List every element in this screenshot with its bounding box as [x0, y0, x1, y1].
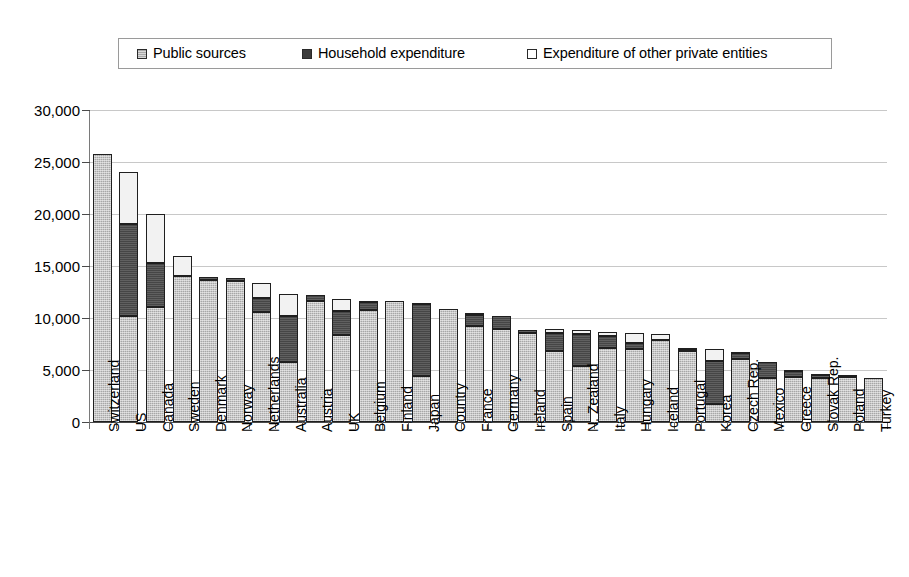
x-axis-category-label: France — [480, 388, 494, 432]
bar-segment-household-expenditure[interactable] — [412, 304, 431, 376]
x-axis-category-label: Netherlands — [267, 357, 281, 433]
bar-group[interactable] — [412, 110, 431, 422]
bar-segment-private-entities[interactable] — [678, 348, 697, 350]
x-axis-category-label: Australia — [294, 378, 308, 432]
bar-group[interactable] — [465, 110, 484, 422]
bar-group[interactable] — [864, 110, 883, 422]
bar-segment-household-expenditure[interactable] — [625, 343, 644, 349]
bar-segment-household-expenditure[interactable] — [146, 263, 165, 307]
x-axis-category-label: Belgium — [373, 381, 387, 432]
x-axis-category-label: Country — [453, 383, 467, 432]
bar-segment-household-expenditure[interactable] — [119, 224, 138, 316]
x-axis-category-label: Japan — [427, 394, 441, 432]
bar-segment-private-entities[interactable] — [545, 329, 564, 332]
bar-group[interactable] — [651, 110, 670, 422]
x-axis-category-label: Denmark — [214, 375, 228, 432]
bar-group[interactable] — [678, 110, 697, 422]
bar-segment-private-entities[interactable] — [412, 303, 431, 305]
bar-segment-household-expenditure[interactable] — [252, 298, 271, 312]
bar-series-layer — [0, 0, 909, 577]
bar-segment-household-expenditure[interactable] — [572, 334, 591, 366]
bar-group[interactable] — [146, 110, 165, 422]
bar-segment-private-entities[interactable] — [731, 352, 750, 354]
x-axis-category-label: Mexico — [772, 388, 786, 432]
bar-group[interactable] — [439, 110, 458, 422]
bar-segment-private-entities[interactable] — [705, 349, 724, 360]
bar-segment-private-entities[interactable] — [279, 294, 298, 316]
x-axis-category-label: UK — [347, 413, 361, 432]
bar-segment-household-expenditure[interactable] — [199, 277, 218, 279]
bar-group[interactable] — [306, 110, 325, 422]
bar-segment-household-expenditure[interactable] — [226, 278, 245, 280]
x-axis-category-label: Sweden — [187, 381, 201, 432]
bar-segment-household-expenditure[interactable] — [518, 330, 537, 332]
x-axis-category-label: N. Zealand — [586, 364, 600, 432]
bar-segment-private-entities[interactable] — [146, 214, 165, 263]
x-axis-category-label: Spain — [560, 396, 574, 432]
bar-segment-household-expenditure[interactable] — [598, 336, 617, 348]
bar-segment-private-entities[interactable] — [119, 172, 138, 224]
bar-segment-household-expenditure[interactable] — [359, 302, 378, 309]
bar-segment-household-expenditure[interactable] — [306, 295, 325, 301]
bar-group[interactable] — [332, 110, 351, 422]
bar-segment-private-entities[interactable] — [465, 313, 484, 315]
bar-group[interactable] — [545, 110, 564, 422]
bar-segment-private-entities[interactable] — [784, 370, 803, 372]
bar-group[interactable] — [173, 110, 192, 422]
bar-segment-private-entities[interactable] — [332, 299, 351, 310]
x-axis-category-label: Portugal — [693, 380, 707, 432]
x-axis-category-label: Austria — [320, 388, 334, 432]
bar-segment-private-entities[interactable] — [252, 283, 271, 299]
bar-segment-private-entities[interactable] — [598, 332, 617, 336]
chart-container: Public sources Household expenditure Exp… — [0, 0, 909, 577]
bar-segment-private-entities[interactable] — [651, 334, 670, 340]
x-axis-category-label: Poland — [852, 388, 866, 432]
bar-segment-household-expenditure[interactable] — [465, 315, 484, 326]
x-axis-category-label: Iceland — [666, 387, 680, 432]
bar-group[interactable] — [385, 110, 404, 422]
x-axis-category-label: Norway — [240, 385, 254, 432]
bar-segment-household-expenditure[interactable] — [279, 316, 298, 362]
x-axis-category-label: Hungary — [639, 379, 653, 432]
x-axis-category-label: Slovak Rep. — [826, 357, 840, 432]
bar-segment-private-entities[interactable] — [359, 301, 378, 303]
x-axis-category-label: Turkey — [879, 390, 893, 432]
bar-group[interactable] — [359, 110, 378, 422]
x-axis-category-label: Germany — [506, 374, 520, 432]
x-axis-category-label: Czech Rep. — [746, 359, 760, 432]
x-axis-category-label: Switzerland — [107, 360, 121, 432]
bar-group[interactable] — [784, 110, 803, 422]
bar-group[interactable] — [625, 110, 644, 422]
x-axis-category-label: US — [134, 413, 148, 432]
x-axis-category-label: Ireland — [533, 389, 547, 432]
x-axis-category-label: Canada — [161, 383, 175, 432]
x-axis-category-label: Greece — [799, 386, 813, 432]
bar-segment-household-expenditure[interactable] — [545, 333, 564, 352]
bar-segment-private-entities[interactable] — [625, 333, 644, 343]
bar-segment-household-expenditure[interactable] — [492, 316, 511, 330]
x-axis-category-label: Korea — [719, 395, 733, 432]
plot-area: 05,00010,00015,00020,00025,00030,000 Swi… — [0, 0, 909, 577]
x-axis-category-label: Italy — [613, 406, 627, 432]
x-axis-category-label: Finland — [400, 386, 414, 432]
bar-segment-private-entities[interactable] — [572, 330, 591, 333]
bar-group[interactable] — [705, 110, 724, 422]
bar-segment-private-entities[interactable] — [173, 256, 192, 277]
bar-segment-household-expenditure[interactable] — [332, 311, 351, 335]
